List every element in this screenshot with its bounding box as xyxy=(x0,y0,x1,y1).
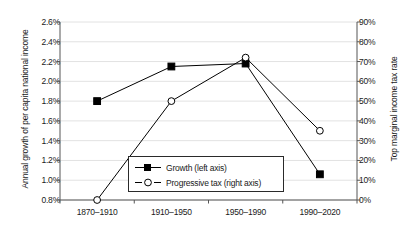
data-point-marker xyxy=(168,98,175,105)
legend-key-growth-icon xyxy=(134,162,162,173)
data-point-marker xyxy=(168,63,175,70)
plot-area xyxy=(0,0,407,229)
chart-legend: Growth (left axis) Progressive tax (righ… xyxy=(128,156,284,192)
legend-label-growth: Growth (left axis) xyxy=(166,163,227,173)
legend-label-progressive-tax: Progressive tax (right axis) xyxy=(166,178,261,188)
data-point-marker xyxy=(242,54,249,61)
legend-item-growth: Growth (left axis) xyxy=(134,160,278,175)
data-point-marker xyxy=(316,171,323,178)
data-point-marker xyxy=(94,197,101,204)
data-point-marker xyxy=(316,127,323,134)
chart-container: Annual growth of per capita national inc… xyxy=(0,0,407,229)
legend-key-progressive-tax-icon xyxy=(134,177,162,188)
data-point-marker xyxy=(94,98,101,105)
legend-item-progressive-tax: Progressive tax (right axis) xyxy=(134,175,278,190)
